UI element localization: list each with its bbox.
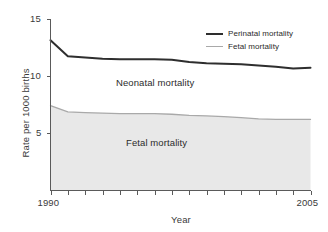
chart-figure: 15 10 5 1990 2005 Rate per 1000 births Y…: [0, 0, 328, 232]
y-axis-tick-label-15: 15: [30, 13, 41, 24]
y-axis-ticks: [47, 20, 51, 134]
neonatal-mortality-annotation: Neonatal mortality: [116, 77, 194, 88]
legend-swatch-fetal-icon: [206, 46, 223, 47]
x-axis-title: Year: [50, 209, 312, 227]
x-axis-ticks: [52, 191, 312, 195]
x-axis-tick-label-2005: 2005: [297, 197, 319, 208]
legend-label-fetal: Fetal mortality: [228, 42, 279, 51]
fetal-mortality-annotation: Fetal mortality: [126, 137, 187, 148]
x-axis-title-text: Year: [171, 214, 191, 225]
chart-legend: Perinatal mortality Fetal mortality: [206, 28, 293, 54]
x-axis-tick-label-1990: 1990: [38, 197, 60, 208]
legend-item-fetal: Fetal mortality: [206, 41, 293, 52]
y-axis-tick-label-5: 5: [36, 127, 41, 138]
legend-item-perinatal: Perinatal mortality: [206, 28, 293, 39]
y-axis-title: Rate per 1000 births: [15, 43, 33, 183]
y-axis-title-text: Rate per 1000 births: [20, 68, 31, 157]
fetal-mortality-area: [51, 106, 311, 191]
legend-swatch-perinatal-icon: [206, 33, 223, 35]
legend-label-perinatal: Perinatal mortality: [228, 29, 293, 38]
